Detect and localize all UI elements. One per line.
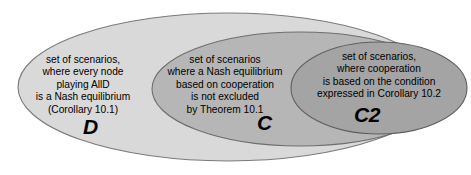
ellipse-set-c2 (291, 42, 467, 134)
venn-diagram-svg (0, 0, 471, 175)
set-diagram: set of scenarios, where every node playi… (0, 0, 471, 175)
